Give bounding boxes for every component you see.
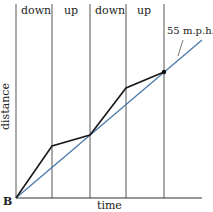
speed-line — [16, 40, 202, 198]
intersection-dot — [162, 70, 166, 74]
segment-label-up-2: up — [137, 4, 151, 17]
y-axis-label: distance — [0, 83, 12, 130]
x-axis-label: time — [97, 199, 122, 212]
segment-label-down-1: down — [21, 4, 51, 17]
speed-label: 55 m.p.h. — [167, 25, 213, 36]
segment-dividers — [16, 4, 164, 198]
segment-label-down-2: down — [95, 4, 125, 17]
segment-label-up-1: up — [64, 4, 78, 17]
panel-label: B — [3, 195, 12, 208]
leader-line — [178, 40, 183, 56]
